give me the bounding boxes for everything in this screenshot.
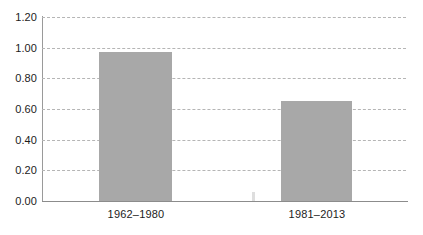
y-tick-label-0.00: 0.00 [3, 196, 37, 207]
y-axis-tick-labels: 1.20 1.00 0.80 0.60 0.40 0.20 0.00 [0, 0, 37, 235]
gridline-1.20 [42, 17, 406, 18]
bar-chart: 1.20 1.00 0.80 0.60 0.40 0.20 0.00 1962–… [0, 0, 423, 235]
y-tick-label-0.20: 0.20 [3, 165, 37, 176]
scan-artifact [252, 192, 255, 201]
x-axis-line [42, 201, 408, 202]
gridline-0.80 [42, 78, 406, 79]
y-tick-label-0.60: 0.60 [3, 104, 37, 115]
bar-1962-1980 [99, 52, 172, 201]
y-tick-label-0.40: 0.40 [3, 135, 37, 146]
x-tick-label-1962-1980: 1962–1980 [76, 208, 196, 220]
plot-area [42, 17, 406, 201]
y-tick-label-0.80: 0.80 [3, 73, 37, 84]
x-tick-label-1981-2013: 1981–2013 [257, 208, 377, 220]
bar-1981-2013 [281, 101, 352, 201]
gridline-1.00 [42, 48, 406, 49]
y-tick-label-1.20: 1.20 [3, 12, 37, 23]
y-tick-label-1.00: 1.00 [3, 43, 37, 54]
